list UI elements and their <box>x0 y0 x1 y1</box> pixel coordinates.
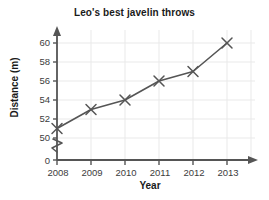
grid-vertical <box>57 30 251 160</box>
x-tick-label-2008: 2008 <box>47 167 68 178</box>
x-tick-label-2010: 2010 <box>115 167 136 178</box>
x-tick-label-2013: 2013 <box>217 167 238 178</box>
y-tick-label-0: 0 <box>45 155 50 166</box>
x-tick-labels: 2008 2009 2010 2011 2012 2013 <box>47 167 238 178</box>
y-tick-label-60: 60 <box>39 37 50 48</box>
y-tick-labels: 60 58 56 54 52 50 0 <box>39 37 50 166</box>
y-tick-label-56: 56 <box>39 75 50 86</box>
grid-horizontal <box>57 43 255 138</box>
plot-area: 60 58 56 54 52 50 0 2008 2009 2010 2011 … <box>0 0 269 200</box>
data-line-series-1 <box>57 43 227 129</box>
y-tick-label-50: 50 <box>39 132 50 143</box>
y-tick-label-54: 54 <box>39 94 50 105</box>
x-tick-label-2012: 2012 <box>183 167 204 178</box>
x-axis <box>57 156 258 164</box>
y-tick-label-58: 58 <box>39 56 50 67</box>
chart-container: Leo's best javelin throws Distance (m) Y… <box>0 0 269 200</box>
y-tick-label-52: 52 <box>39 113 50 124</box>
x-tick-label-2009: 2009 <box>81 167 102 178</box>
x-tick-label-2011: 2011 <box>150 167 170 178</box>
